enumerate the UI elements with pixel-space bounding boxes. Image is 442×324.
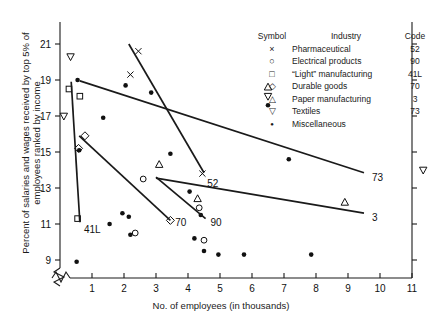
legend-symbol-triangle-up-icon: △: [252, 93, 292, 106]
legend-code-label: [400, 118, 430, 131]
data-point-misc: [127, 215, 132, 220]
legend-industry-label: Miscellaneous: [292, 118, 400, 131]
x-tick-label: 8: [313, 283, 319, 294]
legend-header-symbol: Symbol: [252, 30, 292, 43]
legend-industry-label: Paper manufacturing: [292, 93, 400, 106]
data-point-misc: [202, 249, 207, 254]
trend-line-90: [156, 177, 206, 218]
x-tick-label: 6: [249, 283, 255, 294]
x-axis-break[interactable]: [52, 272, 70, 282]
data-point-misc: [75, 78, 80, 83]
data-point-misc: [128, 233, 133, 238]
data-point-73: [60, 113, 67, 120]
data-point-90: [196, 205, 202, 211]
legend-code-label: 3: [400, 93, 430, 106]
x-tick-label: 2: [121, 283, 127, 294]
data-point-52: [135, 48, 141, 54]
data-point-41L: [77, 93, 83, 99]
data-point-90: [201, 237, 207, 243]
legend-symbol-dot-icon: ●: [252, 118, 292, 131]
trend-line-3: [156, 178, 364, 213]
x-tick-label: 1: [89, 283, 95, 294]
legend-code-label: 52: [400, 43, 430, 56]
data-point-90: [132, 230, 138, 236]
legend-industry-label: Textiles: [292, 105, 400, 118]
data-point-90: [140, 176, 146, 182]
data-point-misc: [309, 252, 314, 257]
legend-code-label: 41L: [400, 68, 430, 81]
trend-label-70: 70: [175, 217, 187, 228]
x-tick-label: 4: [185, 283, 191, 294]
data-point-misc: [107, 222, 112, 227]
legend-code-label: 70: [400, 80, 430, 93]
data-point-misc: [77, 148, 82, 153]
x-tick-label: 10: [374, 283, 386, 294]
data-point-misc: [149, 90, 154, 95]
y-tick-label: 11: [41, 219, 52, 230]
data-point-3: [194, 195, 201, 202]
trend-label-3: 3: [372, 212, 378, 223]
legend: SymbolIndustryCode×Pharmaceutical52○Elec…: [252, 30, 430, 130]
data-point-misc: [168, 152, 173, 157]
legend-symbol-triangle-down-icon: ▽: [252, 105, 292, 118]
data-point-misc: [242, 252, 247, 257]
x-tick-label: 9: [345, 283, 351, 294]
x-tick-label: 11: [407, 283, 418, 294]
data-point-misc: [101, 116, 106, 121]
data-point-misc: [187, 189, 192, 194]
data-point-misc: [120, 211, 125, 216]
x-axis-title: No. of employees (in thousands): [0, 300, 442, 311]
data-point-3: [341, 198, 348, 205]
y-axis-title: Percent of salaries and wages received b…: [20, 18, 42, 268]
legend-symbol-o-icon: ○: [252, 55, 292, 68]
data-point-misc: [192, 236, 197, 241]
legend-symbol-diamond-icon: ◇: [252, 80, 292, 93]
trend-label-41L: 41L: [84, 224, 101, 235]
legend-header-industry: Industry: [292, 30, 400, 43]
legend-symbol-x-icon: ×: [252, 43, 292, 56]
legend-code-label: 73: [400, 105, 430, 118]
data-point-misc: [123, 83, 128, 88]
data-point-52: [127, 72, 133, 78]
x-tick-label: 3: [153, 283, 159, 294]
legend-industry-label: Durable goods: [292, 80, 400, 93]
legend-symbol-square-icon: □: [252, 68, 292, 81]
data-point-3: [156, 161, 163, 168]
trend-label-73: 73: [372, 172, 384, 183]
legend-industry-label: “Light” manufacturing: [292, 68, 400, 81]
y-tick-label: 9: [45, 255, 51, 266]
data-point-73: [67, 54, 74, 61]
data-point-misc: [216, 252, 221, 257]
legend-code-label: 90: [400, 55, 430, 68]
data-point-73: [420, 167, 427, 174]
legend-industry-label: Electrical products: [292, 55, 400, 68]
x-tick-label: 7: [281, 283, 287, 294]
trend-label-90: 90: [210, 217, 222, 228]
legend-header-code: Code: [400, 30, 430, 43]
legend-industry-label: Pharmaceutical: [292, 43, 400, 56]
data-point-misc: [74, 260, 79, 265]
x-tick-label: 5: [217, 283, 223, 294]
chart-container: 91113151719211234567891011529041L70733 P…: [0, 0, 442, 324]
data-point-misc: [287, 157, 292, 162]
